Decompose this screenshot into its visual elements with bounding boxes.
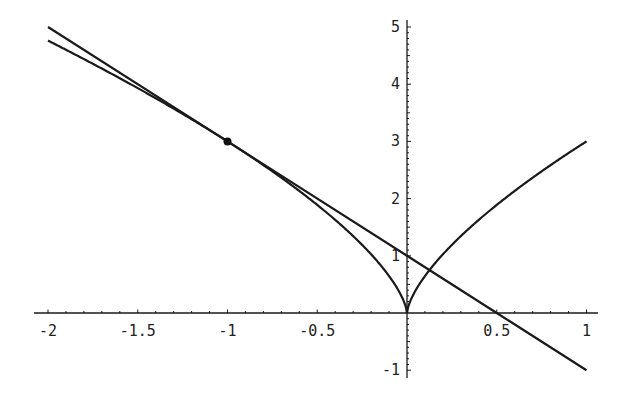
x-tick-label: -2 (39, 322, 57, 340)
y-tick-label: 3 (391, 132, 400, 150)
x-tick-label: 0.5 (483, 322, 510, 340)
x-tick-label: -1.5 (120, 322, 156, 340)
curve-series (48, 41, 587, 313)
tangent-point-marker (224, 137, 232, 145)
y-tick-label: 5 (391, 18, 400, 36)
x-tick-label: -0.5 (299, 322, 335, 340)
y-axis: -112345 (382, 18, 411, 379)
x-tick-label: 1 (582, 322, 591, 340)
chart-plot: -2-1.5-1-0.50.51 -112345 (0, 0, 627, 404)
annotation-layer (224, 137, 232, 145)
y-tick-label: 2 (391, 190, 400, 208)
y-tick-label: 4 (391, 75, 400, 93)
x-tick-label: -1 (218, 322, 236, 340)
series-layer (48, 27, 587, 370)
y-tick-label: -1 (382, 361, 400, 379)
